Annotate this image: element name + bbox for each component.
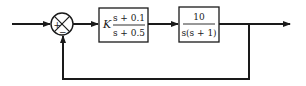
block-diagram: + − K s + 0.1 s + 0.5 10 s(s + 1) xyxy=(0,0,306,86)
plant-block: 10 s(s + 1) xyxy=(179,7,219,42)
minus-sign: − xyxy=(59,27,67,37)
controller-denominator: s + 0.5 xyxy=(113,28,145,38)
controller-numerator: s + 0.1 xyxy=(113,13,145,23)
plant-denominator: s(s + 1) xyxy=(181,28,216,38)
plant-numerator: 10 xyxy=(193,12,205,22)
controller-block: K s + 0.1 s + 0.5 xyxy=(99,8,148,42)
summing-junction: + − xyxy=(51,13,73,37)
feedback-path xyxy=(63,24,249,79)
controller-gain: K xyxy=(102,18,112,31)
